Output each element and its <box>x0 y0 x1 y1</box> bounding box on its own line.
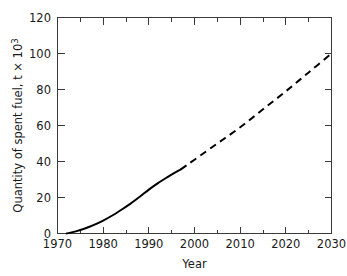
x-axis-tick-labels: 1970 1980 1990 2000 2010 2020 2030 <box>43 237 346 251</box>
y-tick-label-120: 120 <box>29 11 51 25</box>
y-axis-title-exponent: 3 <box>10 38 20 43</box>
y-tick-label-20: 20 <box>36 191 51 205</box>
x-tick-label-1990: 1990 <box>134 237 163 251</box>
y-tick-label-40: 40 <box>36 155 51 169</box>
x-tick-label-1970: 1970 <box>43 237 72 251</box>
y-tick-label-100: 100 <box>29 47 51 61</box>
y-tick-label-80: 80 <box>36 83 51 97</box>
svg-text:Quantity of spent fuel, t × 10: Quantity of spent fuel, t × 103 <box>10 38 25 212</box>
x-tick-label-2000: 2000 <box>180 237 209 251</box>
x-tick-label-2010: 2010 <box>226 237 255 251</box>
plot-area-background <box>57 17 332 234</box>
y-axis-tick-labels: 0 20 40 60 80 100 120 <box>29 11 51 241</box>
y-tick-label-60: 60 <box>36 119 51 133</box>
x-tick-label-2030: 2030 <box>317 237 346 251</box>
x-tick-label-1980: 1980 <box>89 237 118 251</box>
x-tick-label-2020: 2020 <box>271 237 300 251</box>
y-axis-title-group: Quantity of spent fuel, t × 103 <box>10 38 25 212</box>
chart-figure: 0 20 40 60 80 100 120 1970 1980 1990 200… <box>0 0 347 276</box>
y-axis-title: Quantity of spent fuel, t × 10 <box>11 44 25 213</box>
x-axis-title: Year <box>181 257 207 271</box>
spent-fuel-line-chart: 0 20 40 60 80 100 120 1970 1980 1990 200… <box>0 0 347 276</box>
